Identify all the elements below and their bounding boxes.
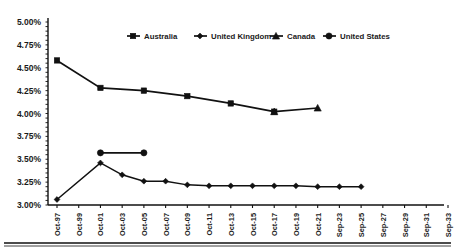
legend-item-united-kingdom[interactable]: United Kingdom [194,32,271,41]
chart-canvas: 5.00%4.75%4.50%4.25%4.00%3.75%3.50%3.25%… [0,0,455,251]
legend-label: Canada [287,32,316,41]
line-chart: 5.00%4.75%4.50%4.25%4.00%3.75%3.50%3.25%… [0,0,455,251]
x-axis-tick-label: Sep-25 [357,213,366,237]
square-marker [185,93,190,98]
x-axis-tick-label: Oct-09 [183,213,192,236]
diamond-marker [141,178,147,184]
series-united-kingdom [54,160,364,202]
x-axis-tick-label: Sep-23 [335,213,344,237]
diamond-marker [315,184,321,190]
series-line [57,60,274,111]
square-marker [54,58,59,63]
legend-label: United States [340,32,390,41]
y-axis-tick-label: 4.25% [17,86,42,96]
y-axis-tick-label: 3.25% [17,177,42,187]
chart-legend: AustraliaUnited KingdomCanadaUnited Stat… [127,32,390,41]
x-axis-tick-label: Oct-19 [292,213,301,236]
legend-label: Australia [144,32,178,41]
y-axis-tick-label: 5.00% [17,17,42,27]
x-axis-tick-label: Oct-21 [314,213,323,236]
x-axis-tick-label: Oct-01 [96,213,105,236]
x-axis-tick-label: Oct-15 [249,213,258,236]
x-axis-tick-labels: Oct-97Oct-99Oct-01Oct-03Oct-05Oct-07Oct-… [53,213,453,237]
diamond-marker [184,182,190,188]
circle-marker [141,150,147,156]
x-axis-tick-label: Oct-17 [270,213,279,236]
diamond-marker [250,183,256,189]
series-layer [54,58,364,203]
diamond-marker [206,183,212,189]
x-axis-tick-label: Oct-97 [53,213,62,236]
diamond-marker [163,178,169,184]
y-axis-tick-label: 3.00% [17,200,42,210]
diamond-marker [358,184,364,190]
y-axis-tick-label: 3.50% [17,154,42,164]
series-line [274,108,317,112]
x-axis-tick-label: Sep-31 [422,213,431,237]
square-marker [98,85,103,90]
legend-item-australia[interactable]: Australia [127,32,178,41]
circle-marker [97,150,103,156]
legend-item-canada[interactable]: Canada [270,32,316,41]
diamond-marker [293,183,299,189]
x-axis-tick-label: Oct-05 [140,213,149,236]
series-australia [54,58,277,115]
x-axis-tick-label: Oct-11 [205,213,214,236]
y-axis-minor-ticks [46,22,49,205]
legend-label: United Kingdom [211,32,271,41]
y-axis-group: 5.00%4.75%4.50%4.25%4.00%3.75%3.50%3.25%… [17,17,48,210]
x-axis-tick-label: Oct-99 [75,213,84,236]
circle-marker [326,33,332,39]
x-axis-tick-label: Oct-13 [227,213,236,236]
x-axis-tick-label: Oct-07 [162,213,171,236]
square-marker [228,101,233,106]
x-axis-tick-label: Sep-33 [444,213,453,237]
square-marker [141,88,146,93]
legend-item-united-states[interactable]: United States [323,32,390,41]
diamond-marker [228,183,234,189]
y-axis-tick-label: 4.00% [17,109,42,119]
x-axis-tick-label: Oct-03 [118,213,127,236]
x-axis-tick-label: Sep-29 [401,213,410,237]
diamond-marker [197,33,203,39]
diamond-marker [271,183,277,189]
series-canada [271,104,322,114]
diamond-marker [336,184,342,190]
x-axis-group: Oct-97Oct-99Oct-01Oct-03Oct-05Oct-07Oct-… [48,205,453,237]
series-line [57,163,361,200]
y-axis-tick-label: 3.75% [17,131,42,141]
x-axis-tick-label: Sep-27 [379,213,388,237]
series-united-states [97,150,147,156]
y-axis-tick-label: 4.50% [17,63,42,73]
y-axis-tick-labels: 5.00%4.75%4.50%4.25%4.00%3.75%3.50%3.25%… [17,17,42,210]
diamond-marker [119,172,125,178]
square-marker [130,33,135,38]
y-axis-tick-label: 4.75% [17,40,42,50]
